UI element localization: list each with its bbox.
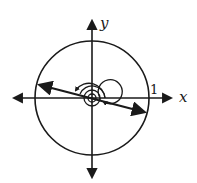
rotation-spiral xyxy=(76,80,122,106)
unit-circle-diagram: y x 1 xyxy=(0,0,197,183)
y-axis-label: y xyxy=(99,14,109,32)
radius-label: 1 xyxy=(150,82,158,97)
x-axis-label: x xyxy=(179,88,188,106)
